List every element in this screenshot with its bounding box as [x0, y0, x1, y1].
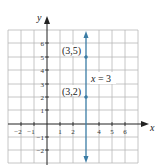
- y-tick-label: 5: [41, 54, 45, 62]
- y-axis-label: y: [36, 12, 42, 23]
- y-tick-label: 4: [41, 67, 45, 75]
- y-tick-label: 2: [41, 94, 45, 102]
- coordinate-plane: x y −2 −1 1 2 4 5 6 6 5 4 3 2 1 −1: [0, 0, 159, 167]
- x-tick-label: 6: [123, 128, 127, 136]
- x-tick-label: −1: [27, 128, 35, 136]
- x-axis-label: x: [149, 122, 155, 133]
- x-tick-label: 1: [58, 128, 62, 136]
- x-tick-label: 4: [97, 128, 101, 136]
- equation-label: x = 3: [90, 73, 111, 84]
- line-arrow-up-icon: [84, 31, 89, 38]
- y-tick-label: −1: [37, 134, 45, 142]
- y-tick-label: 6: [41, 40, 45, 48]
- y-axis-arrow-icon: [44, 16, 50, 24]
- y-tick-label: 3: [41, 81, 45, 89]
- x-tick-labels: −2 −1 1 2 4 5 6: [14, 128, 127, 136]
- point-label-3-2: (3,2): [62, 86, 81, 98]
- x-axis-arrow-icon: [141, 121, 149, 127]
- y-tick-label: −2: [37, 147, 45, 155]
- y-axis: [44, 16, 50, 165]
- point-label-3-5: (3,5): [62, 45, 81, 57]
- line-arrow-down-icon: [84, 156, 89, 163]
- x-tick-label: 5: [110, 128, 114, 136]
- x-axis: [8, 121, 149, 127]
- x-tick-label: −2: [14, 128, 22, 136]
- y-tick-label: 1: [41, 107, 45, 115]
- x-tick-label: 2: [71, 128, 75, 136]
